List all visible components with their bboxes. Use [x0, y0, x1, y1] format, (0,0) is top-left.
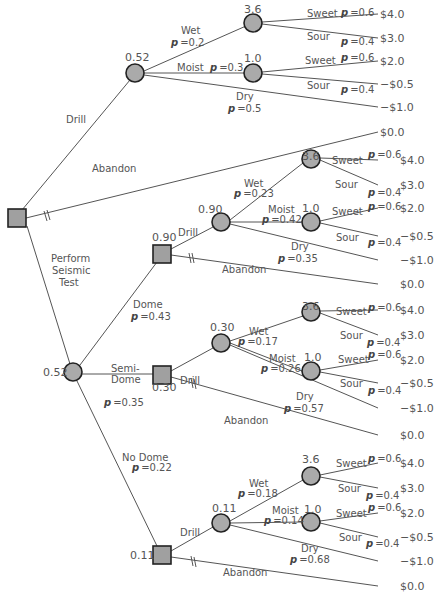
- sour-label: Sour: [339, 532, 363, 543]
- sweet-prob: p=0.6: [367, 502, 401, 513]
- sweet-prob: p=0.6: [340, 7, 374, 18]
- dome-prob: p=0.43: [130, 311, 171, 322]
- tick: [194, 557, 196, 567]
- drill-label: Drill: [180, 375, 200, 386]
- node-value: 1.0: [302, 202, 320, 215]
- wet-label: Wet: [181, 25, 200, 36]
- sour-label: Sour: [335, 179, 359, 190]
- payoff: $0.0: [400, 580, 425, 593]
- abandon-label: Abandon: [222, 264, 266, 275]
- no-dome-prob: p=0.22: [131, 462, 172, 473]
- semi-moist-chance-node: [302, 362, 320, 380]
- node-value: 0.11: [212, 502, 237, 515]
- dome-label: Dome: [133, 299, 163, 310]
- payoff: −$1.0: [380, 101, 414, 114]
- sour-prob: p=0.4: [366, 337, 400, 348]
- wet-prob: p=0.23: [233, 188, 274, 199]
- sour-prob: p=0.4: [367, 187, 401, 198]
- payoff: $4.0: [400, 304, 425, 317]
- payoff: $4.0: [380, 8, 405, 21]
- tick: [191, 556, 193, 566]
- sweet-label: Sweet: [336, 508, 367, 519]
- decision-tree: Drill 0.52 Wet p=0.2 Moist p=0.3 Dry p=0…: [0, 0, 442, 603]
- sour-label: Sour: [340, 378, 364, 389]
- semi-dome-prob: p=0.35: [103, 397, 144, 408]
- node-value: 1.0: [304, 351, 322, 364]
- edge-drill: [171, 348, 213, 371]
- sour-prob: p=0.4: [367, 237, 401, 248]
- node-value: 0.30: [210, 321, 235, 334]
- wet-chance-node: [244, 14, 262, 32]
- sour-label: Sour: [307, 80, 331, 91]
- tick: [47, 210, 50, 220]
- edge-seismic: [27, 226, 70, 364]
- node-value: 3.6: [302, 150, 320, 163]
- dry-label: Dry: [291, 241, 309, 252]
- sweet-prob: p=0.6: [367, 453, 401, 464]
- perform-seismic-label: Seismic: [52, 265, 91, 276]
- payoff: −$0.5: [400, 377, 434, 390]
- node-value: 0.52: [43, 366, 68, 379]
- perform-seismic-label: Perform: [51, 253, 90, 264]
- payoff: $0.0: [380, 126, 405, 139]
- root-decision-node: [8, 209, 26, 227]
- payoff: $0.0: [400, 278, 425, 291]
- semi-dome-label: Semi-: [111, 363, 140, 374]
- wet-prob: p=0.17: [237, 336, 278, 347]
- nodome-drill-chance-node: [212, 514, 230, 532]
- abandon-label: Abandon: [224, 415, 268, 426]
- payoff: −$0.5: [400, 230, 434, 243]
- dry-label: Dry: [296, 391, 314, 402]
- sweet-label: Sweet: [332, 206, 363, 217]
- sweet-label: Sweet: [332, 155, 363, 166]
- payoff: −$0.5: [400, 531, 434, 544]
- sour-label: Sour: [340, 330, 364, 341]
- sweet-prob: p=0.6: [367, 149, 401, 160]
- sour-prob: p=0.4: [367, 385, 401, 396]
- node-value: 0.90: [198, 203, 223, 216]
- nodome-wet-chance-node: [302, 467, 320, 485]
- drill-label: Drill: [178, 227, 198, 238]
- sour-prob: p=0.4: [365, 490, 399, 501]
- sour-label: Sour: [307, 31, 331, 42]
- sweet-label: Sweet: [305, 55, 336, 66]
- dome-decision-node: [153, 245, 171, 263]
- moist-prob: p=0.26: [260, 363, 301, 374]
- dry-prob: p=0.5: [227, 103, 261, 114]
- edge-abandon: [171, 255, 378, 284]
- wet-prob: p=0.18: [237, 488, 278, 499]
- perform-seismic-label: Test: [58, 277, 79, 288]
- node-value: 0.90: [152, 231, 177, 244]
- sweet-label: Sweet: [338, 354, 369, 365]
- edge-drill: [22, 80, 130, 210]
- dry-prob: p=0.35: [277, 253, 318, 264]
- payoff: −$0.5: [380, 78, 414, 91]
- payoff: −$1.0: [400, 402, 434, 415]
- node-value: 1.0: [244, 52, 262, 65]
- no-dome-decision-node: [153, 546, 171, 564]
- payoff: $2.0: [380, 55, 405, 68]
- payoff: −$1.0: [400, 254, 434, 267]
- payoff: −$1.0: [400, 555, 434, 568]
- moist-prob: p=0.14: [263, 515, 304, 526]
- moist-chance-node: [244, 64, 262, 82]
- sour-label: Sour: [336, 232, 360, 243]
- dome-moist-chance-node: [302, 213, 320, 231]
- sweet-prob: p=0.6: [340, 52, 374, 63]
- payoff: $2.0: [400, 354, 425, 367]
- moist-label: Moist: [177, 62, 204, 73]
- node-value: 3.6: [302, 300, 320, 313]
- semi-drill-chance-node: [212, 334, 230, 352]
- abandon-label: Abandon: [223, 567, 267, 578]
- dry-label: Dry: [301, 543, 319, 554]
- sour-prob: p=0.4: [340, 84, 374, 95]
- sweet-label: Sweet: [336, 306, 367, 317]
- moist-prob: p=0.42: [261, 214, 302, 225]
- dry-prob: p=0.57: [283, 403, 324, 414]
- payoff: $3.0: [400, 179, 425, 192]
- sweet-label: Sweet: [307, 8, 338, 19]
- payoff: $3.0: [400, 482, 425, 495]
- semi-dome-label: Dome: [111, 374, 141, 385]
- sour-prob: p=0.4: [365, 538, 399, 549]
- payoff: $4.0: [400, 154, 425, 167]
